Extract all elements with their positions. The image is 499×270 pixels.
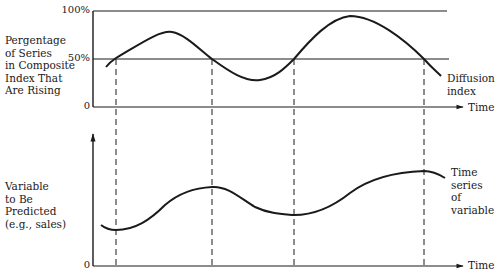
tick-0-top: 0 (60, 100, 90, 111)
diffusion-index-curve (106, 16, 441, 80)
tick-0-bottom: 0 (60, 259, 90, 270)
bottom-chart (93, 134, 463, 266)
tick-100-percent: 100% (60, 4, 90, 15)
bottom-time-label: Time (468, 259, 495, 270)
diffusion-index-label: Diffusion index (447, 72, 495, 97)
bottom-y-axis-label: Variable to Be Predicted (e.g., sales) (5, 180, 66, 230)
tick-50-percent: 50% (60, 52, 90, 63)
time-series-label: Time series of variable (451, 166, 499, 216)
top-y-axis-label: Pergentage of Series in Composite Index … (5, 34, 75, 97)
top-chart (93, 11, 463, 107)
time-series-curve (101, 171, 445, 230)
dashed-turning-point-lines (116, 59, 424, 266)
top-time-label: Time (468, 101, 495, 114)
